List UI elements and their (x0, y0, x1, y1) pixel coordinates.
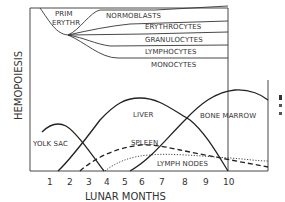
granulocytes-branch (68, 32, 228, 35)
lymph-nodes-label: LYMPH NODES (157, 160, 209, 168)
lymphocytes-label: LYMPHOCYTES (145, 48, 197, 56)
x-tick-4: 4 (104, 177, 110, 187)
cropped-text-fragment (279, 112, 282, 115)
x-tick-3: 3 (86, 177, 92, 187)
x-tick-1: 1 (47, 177, 53, 187)
erythrocytes-label: ERYTHROCYTES (145, 23, 202, 31)
cropped-text-fragment (279, 95, 282, 100)
normoblasts-label: NORMOBLASTS (106, 12, 162, 20)
x-tick-6: 6 (139, 177, 145, 187)
x-tick-5: 5 (122, 177, 128, 187)
granulocytes-label: GRANULOCYTES (145, 36, 203, 44)
x-tick-10: 10 (223, 177, 235, 187)
x-tick-8: 8 (182, 177, 188, 187)
prim-label-2: ERYTHR (52, 19, 80, 27)
y-axis-label: HEMOPOIESIS (13, 51, 24, 120)
bone-marrow-label: BONE MARROW (200, 112, 256, 120)
x-tick-2: 2 (67, 177, 73, 187)
yolk-sac-label: YOLK SAC (32, 140, 68, 148)
liver-label: LIVER (133, 111, 154, 119)
hemopoiesis-diagram: PRIM ERYTHR NORMOBLASTS ERYTHROCYTES GRA… (0, 0, 285, 202)
spleen-label: SPLEEN (131, 139, 158, 147)
x-axis-label: LUNAR MONTHS (85, 191, 166, 202)
cropped-text-fragment (279, 104, 282, 107)
bone-marrow-curve (130, 90, 268, 171)
monocytes-label: MONOCYTES (151, 61, 197, 69)
x-tick-7: 7 (159, 177, 165, 187)
prim-label-1: PRIM (55, 10, 73, 18)
x-tick-9: 9 (203, 177, 209, 187)
